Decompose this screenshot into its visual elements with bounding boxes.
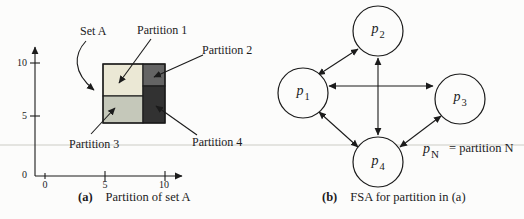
y-tick-label-0: 0 [11,169,27,180]
set-a-square [103,64,165,123]
x-tick-label-0: 0 [38,179,52,190]
node-p2-base: p [371,21,378,36]
node-p4-base: p [371,153,378,168]
legend-p-sub: N [431,148,439,160]
partition-4-label: Partition 4 [192,135,242,150]
caption-b: (b) FSA for partition in (a) [322,190,466,205]
node-p1-base: p [296,83,303,98]
caption-b-label: (b) [322,190,337,205]
partition-1-rect [103,64,143,96]
edge-p1-p2 [318,49,358,75]
fsa-edges [318,49,441,147]
node-p3-sub: 3 [461,97,466,108]
partition-2-label: Partition 2 [202,43,252,58]
partition-3-label: Partition 3 [69,137,119,152]
node-p1-label: p1 [296,83,309,102]
edge-p1-p4 [319,112,358,147]
node-p2-label: p2 [371,21,384,40]
partition-1-label: Partition 1 [137,23,187,38]
node-p1-sub: 1 [304,91,309,102]
caption-b-text: FSA for partition in (a) [350,190,465,205]
caption-a: (a) Partition of set A [78,190,191,205]
figure-canvas: Set A Partition 1 Partition 2 Partition … [0,0,524,219]
y-tick-label-10: 10 [11,57,27,68]
y-tick-label-5: 5 [11,110,27,121]
node-p2-sub: 2 [379,29,384,40]
node-p3-label: p3 [453,89,466,108]
diagram-linework [0,0,524,219]
node-p4-label: p4 [371,153,384,172]
partition-2-rect [143,64,165,86]
x-tick-label-10: 10 [157,179,171,190]
set-a-arrow [77,41,94,90]
legend-equals-text: = partition N [449,141,514,155]
partition-4-rect [143,86,165,123]
set-a-label: Set A [80,24,106,39]
node-p3-base: p [453,89,460,104]
partition-3-rect [103,96,143,123]
x-tick-label-5: 5 [98,179,112,190]
legend-p-base: p [423,141,430,156]
caption-a-text: Partition of set A [106,190,191,205]
node-p4-sub: 4 [379,161,384,172]
caption-a-label: (a) [78,190,93,205]
legend-pn: pN= partition N [423,141,514,160]
